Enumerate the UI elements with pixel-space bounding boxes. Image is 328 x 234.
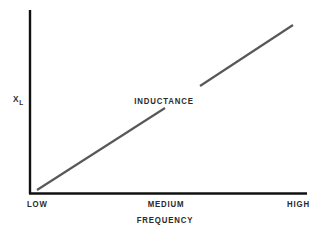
x-axis-title: FREQUENCY — [137, 216, 194, 225]
y-axis-label: XL — [13, 95, 23, 106]
x-tick-label-high: HIGH — [287, 200, 310, 209]
inductance-line-segment-lower — [37, 108, 165, 190]
x-tick-label-low: LOW — [27, 200, 48, 209]
y-axis-label-subscript: L — [19, 99, 23, 106]
inductance-frequency-chart: XL INDUCTANCE LOW MEDIUM HIGH FREQUENCY — [0, 0, 328, 234]
inductance-line-segment-upper — [200, 25, 293, 86]
inductance-series-label: INDUCTANCE — [134, 97, 193, 106]
x-tick-label-medium: MEDIUM — [148, 200, 185, 209]
